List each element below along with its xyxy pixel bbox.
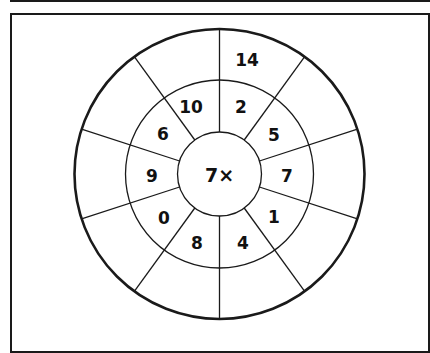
center-multiplier-label: 7× — [205, 164, 234, 186]
inner-number-bottom-right: 4 — [237, 233, 249, 253]
inner-number-lower-left: 0 — [158, 208, 170, 228]
inner-number-top-right: 2 — [235, 97, 247, 117]
inner-number-right: 7 — [281, 166, 293, 186]
inner-number-bottom-left: 8 — [191, 233, 203, 253]
inner-number-upper-left: 6 — [157, 124, 169, 144]
inner-number-lower-right: 1 — [268, 207, 280, 227]
inner-number-top-left: 10 — [179, 97, 203, 117]
outer-answer-top-right[interactable]: 14 — [235, 50, 259, 70]
inner-number-left: 9 — [146, 166, 158, 186]
inner-number-upper-right: 5 — [268, 125, 280, 145]
